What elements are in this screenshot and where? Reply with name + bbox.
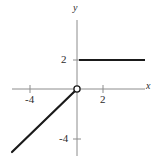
coordinate-plane-svg	[0, 0, 160, 164]
graph-figure: -4 2 2 -4 x y	[0, 0, 160, 164]
y-tick-label-neg4: -4	[59, 133, 68, 144]
y-axis-label: y	[73, 3, 77, 13]
x-axis-label: x	[146, 81, 150, 91]
open-circle-origin-marker	[74, 86, 80, 92]
y-tick-label-2: 2	[61, 54, 67, 65]
x-tick-label-2: 2	[100, 94, 106, 105]
x-tick-label-neg4: -4	[25, 94, 34, 105]
